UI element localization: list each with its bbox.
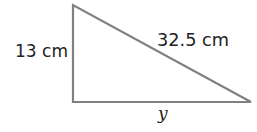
hypotenuse-label: 32.5 cm [157,30,229,50]
vertical-side-label: 13 cm [15,41,68,61]
base-variable-label: y [157,103,168,123]
triangle-diagram: 13 cm 32.5 cm y [0,0,257,132]
right-triangle [73,5,251,102]
